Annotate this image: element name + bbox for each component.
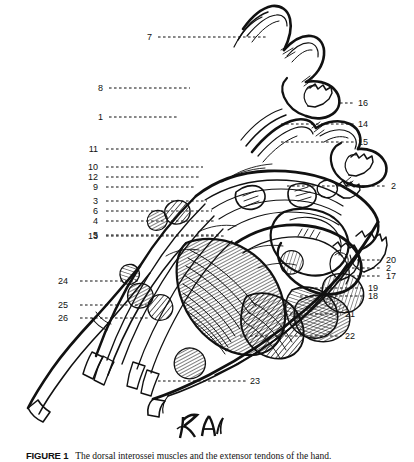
leader-number: 2 <box>391 181 396 191</box>
leader-callout-11: 11 <box>89 144 188 154</box>
leader-number: 23 <box>250 376 260 386</box>
leader-callout-1: 1 <box>98 112 177 122</box>
leader-number: 11 <box>89 144 98 154</box>
index-finger-group <box>234 6 339 118</box>
leader-number: 16 <box>358 98 368 108</box>
leader-number: 3 <box>93 196 98 206</box>
leader-number: 13 <box>88 231 98 241</box>
leader-number: 14 <box>358 119 368 129</box>
artist-signature <box>177 415 223 438</box>
figure-caption-line: FIGURE 1The dorsal interossei muscles an… <box>26 450 406 462</box>
leader-callout-12: 12 <box>88 172 200 182</box>
leader-callout-8: 8 <box>98 83 190 93</box>
leader-number: 8 <box>98 83 103 93</box>
hand-dissection-illustration: 7811110129364513242526161415220217191821… <box>0 0 414 462</box>
leader-number: 1 <box>98 112 103 122</box>
leader-number: 15 <box>358 137 368 147</box>
leader-callout-16: 16 <box>340 98 368 108</box>
leader-number: 21 <box>345 309 355 319</box>
leader-number: 4 <box>93 216 98 226</box>
leader-number: 25 <box>58 300 68 310</box>
leader-callout-10: 10 <box>88 162 203 172</box>
leader-number: 17 <box>386 271 396 281</box>
figure-caption-text: The dorsal interossei muscles and the ex… <box>68 451 331 461</box>
figure-caption: FIGURE 1The dorsal interossei muscles an… <box>26 450 406 462</box>
leader-callout-23: 23 <box>158 376 260 386</box>
leader-number: 9 <box>93 182 98 192</box>
leader-number: 24 <box>58 276 68 286</box>
figure-page: 7811110129364513242526161415220217191821… <box>0 0 414 462</box>
leader-number: 12 <box>88 172 98 182</box>
leader-number: 7 <box>147 32 152 42</box>
leader-callout-7: 7 <box>147 32 268 42</box>
leader-number: 6 <box>93 206 98 216</box>
leader-number: 22 <box>345 331 355 341</box>
leader-callout-26: 26 <box>58 313 150 323</box>
leader-number: 10 <box>88 162 98 172</box>
leader-number: 26 <box>58 313 68 323</box>
leader-callout-9: 9 <box>93 182 196 192</box>
figure-caption-label: FIGURE 1 <box>26 450 68 461</box>
leader-number: 18 <box>368 291 378 301</box>
anatomical-figure-plate: 7811110129364513242526161415220217191821… <box>0 0 414 462</box>
